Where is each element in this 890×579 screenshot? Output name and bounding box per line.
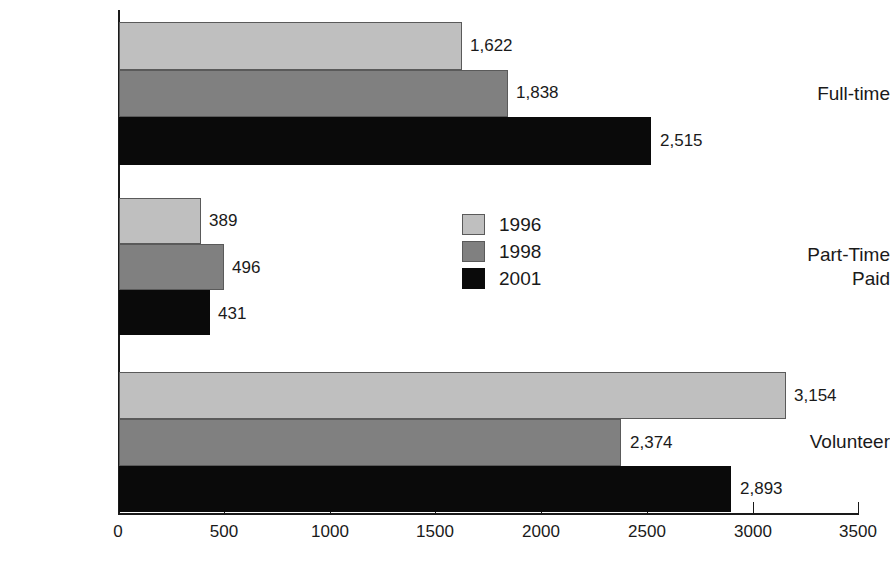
chart-title-cropped	[0, 0, 890, 3]
bar-label-fulltime-1998: 1,838	[516, 83, 559, 103]
category-label-fulltime-text: Full-time	[817, 83, 890, 104]
axis-tick-label-2500: 2500	[628, 522, 666, 542]
bar-volunteer-2001	[119, 466, 731, 512]
legend-swatch-1996-icon	[462, 214, 485, 235]
category-axis-line	[118, 513, 859, 515]
category-label-fulltime: Full-time	[778, 82, 890, 106]
bar-label-fulltime-1996: 1,622	[470, 36, 513, 56]
axis-tick-label-2000: 2000	[522, 522, 560, 542]
bar-label-volunteer-2001: 2,893	[740, 479, 783, 499]
legend-item-2001: 2001	[462, 265, 541, 292]
legend-label-1996: 1996	[499, 214, 541, 236]
chart-legend: 1996 1998 2001	[462, 211, 541, 292]
category-label-volunteer: Volunteer	[778, 430, 890, 454]
bar-parttime-1996	[119, 198, 201, 244]
bar-parttime-2001	[119, 290, 210, 335]
legend-swatch-1998-icon	[462, 241, 485, 262]
bar-label-parttime-2001: 431	[218, 304, 246, 324]
axis-tick-label-0: 0	[113, 522, 122, 542]
bar-label-parttime-1998: 496	[232, 258, 260, 278]
bar-label-fulltime-2001: 2,515	[660, 131, 703, 151]
bar-label-volunteer-1998: 2,374	[630, 433, 673, 453]
axis-tick-label-3500: 3500	[839, 522, 877, 542]
axis-tick-label-3000: 3000	[734, 522, 772, 542]
bar-parttime-1998	[119, 244, 224, 290]
bar-label-volunteer-1996: 3,154	[794, 386, 837, 406]
axis-tick-label-1000: 1000	[311, 522, 349, 542]
bar-fulltime-1996	[119, 22, 462, 70]
legend-label-1998: 1998	[499, 241, 541, 263]
axis-tick-label-1500: 1500	[416, 522, 454, 542]
legend-item-1996: 1996	[462, 211, 541, 238]
axis-tick-3500	[858, 502, 859, 514]
category-label-parttime: Part-Time Paid	[778, 243, 890, 291]
bar-chart: 0 500 1000 1500 2000 2500 3000 3500 1,62…	[0, 0, 890, 579]
bar-fulltime-1998	[119, 70, 508, 117]
bar-fulltime-2001	[119, 117, 651, 165]
axis-tick-3000	[753, 502, 754, 514]
category-label-parttime-line2: Paid	[778, 267, 890, 291]
bar-label-parttime-1996: 389	[209, 211, 237, 231]
bar-volunteer-1996	[119, 372, 786, 419]
legend-label-2001: 2001	[499, 268, 541, 290]
legend-item-1998: 1998	[462, 238, 541, 265]
axis-tick-label-500: 500	[210, 522, 238, 542]
category-label-parttime-line1: Part-Time	[778, 243, 890, 267]
bar-volunteer-1998	[119, 419, 621, 466]
category-label-volunteer-text: Volunteer	[810, 431, 890, 452]
legend-swatch-2001-icon	[462, 268, 485, 289]
